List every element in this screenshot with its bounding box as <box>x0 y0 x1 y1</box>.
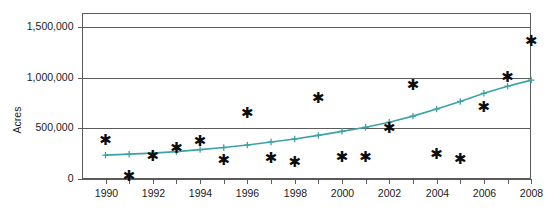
x-tick-label: 2006 <box>473 187 497 199</box>
y-axis-title: Acres <box>11 107 23 134</box>
y-tick-label: 1,500,000 <box>27 20 74 32</box>
y-tick-label: 1,000,000 <box>27 71 74 83</box>
trend-marker-plus <box>126 151 132 157</box>
trend-marker-plus <box>268 139 274 145</box>
acres-scatter-chart: 0500,0001,000,0001,500,000 1990199219941… <box>0 0 559 214</box>
trend-marker-plus <box>339 128 345 134</box>
x-tick-label: 1990 <box>95 187 119 199</box>
scatter-point: ✱ <box>99 131 112 149</box>
chart-screenshot: 0500,0001,000,0001,500,000 1990199219941… <box>0 0 559 214</box>
scatter-point: ✱ <box>265 149 278 167</box>
y-axis-tick-labels: 0500,0001,000,0001,500,000 <box>27 20 74 184</box>
trend-marker-plus <box>410 113 416 119</box>
y-axis-tick-marks <box>78 28 83 180</box>
scatter-point: ✱ <box>123 167 136 185</box>
scatter-point: ✱ <box>241 104 254 122</box>
trend-marker-plus <box>102 152 108 158</box>
scatter-point: ✱ <box>312 89 325 107</box>
x-tick-label: 1994 <box>189 187 213 199</box>
x-tick-label: 2000 <box>331 187 355 199</box>
x-tick-label: 2004 <box>426 187 450 199</box>
scatter-point: ✱ <box>501 68 514 86</box>
x-axis-tick-labels: 1990199219941996199820002002200420062008 <box>95 187 544 199</box>
trend-marker-plus <box>481 90 487 96</box>
trend-marker-plus <box>244 142 250 148</box>
scatter-point: ✱ <box>147 147 160 165</box>
scatter-point: ✱ <box>383 119 396 137</box>
y-tick-label: 500,000 <box>36 121 74 133</box>
scatter-point: ✱ <box>478 98 491 116</box>
scatter-point: ✱ <box>454 150 467 168</box>
scatter-points-series: ✱✱✱✱✱✱✱✱✱✱✱✱✱✱✱✱✱✱✱ <box>99 32 537 185</box>
x-tick-label: 1998 <box>284 187 308 199</box>
trend-marker-plus <box>457 98 463 104</box>
scatter-point: ✱ <box>525 32 538 50</box>
trend-marker-plus <box>433 106 439 112</box>
scatter-point: ✱ <box>430 145 443 163</box>
scatter-point: ✱ <box>170 139 183 157</box>
scatter-point: ✱ <box>336 148 349 166</box>
scatter-point: ✱ <box>407 76 420 94</box>
trend-marker-plus <box>528 77 534 83</box>
x-tick-label: 2002 <box>378 187 402 199</box>
scatter-point: ✱ <box>359 148 372 166</box>
y-tick-label: 0 <box>68 172 74 184</box>
x-tick-label: 1996 <box>236 187 260 199</box>
scatter-point: ✱ <box>217 151 230 169</box>
trend-marker-plus <box>362 124 368 130</box>
scatter-point: ✱ <box>288 153 301 171</box>
y-axis-title-label: Acres <box>11 107 23 134</box>
trend-marker-plus <box>292 136 298 142</box>
scatter-point: ✱ <box>194 132 207 150</box>
x-tick-label: 1992 <box>142 187 166 199</box>
trend-marker-plus <box>315 132 321 138</box>
x-tick-label: 2008 <box>520 187 544 199</box>
